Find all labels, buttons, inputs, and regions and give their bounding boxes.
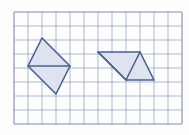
geometry-canvas xyxy=(0,0,189,135)
figure-root xyxy=(0,0,189,135)
